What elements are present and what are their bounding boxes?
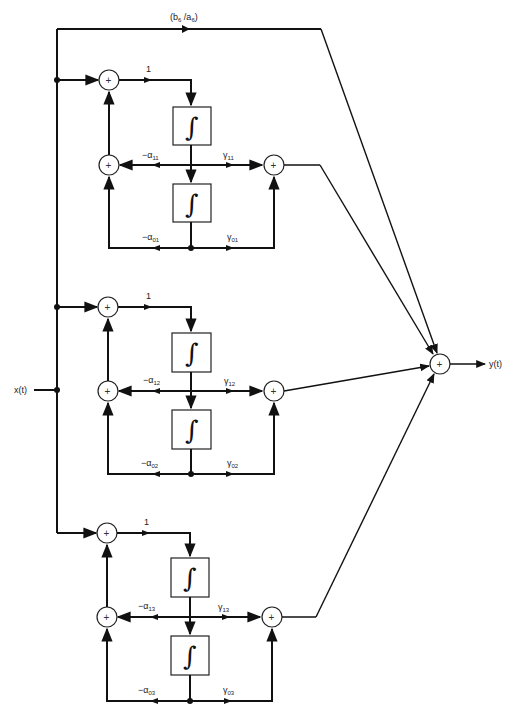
integral-icon: ∫ — [185, 415, 199, 445]
plus-icon: + — [105, 386, 111, 397]
gamma1-label: γ12 — [224, 376, 236, 387]
gamma0-label: γ02 — [227, 458, 239, 469]
alpha1-label: −α11 — [142, 150, 159, 161]
gamma0-label: γ03 — [223, 685, 235, 696]
arrow-icon — [182, 25, 190, 33]
gamma1-label: γ11 — [223, 150, 234, 161]
plus-icon: + — [104, 528, 110, 539]
plus-icon: + — [437, 359, 443, 370]
plus-icon: + — [106, 160, 112, 171]
feedthrough-gain-label: (b6 /a6) — [170, 12, 198, 23]
alpha1-label: −α13 — [138, 601, 156, 612]
forward-gain-label: 1 — [144, 517, 149, 527]
block-diagram: x(t) (b6 /a6) + 1 ∫ ∫ + — [0, 0, 524, 714]
alpha1-label: −α12 — [143, 375, 161, 386]
stage-3: + 1 ∫ ∫ + + −α13 γ13 −α03 γ03 — [57, 374, 434, 704]
stage-2-output-wire — [284, 366, 429, 391]
forward-gain-label: 1 — [146, 291, 151, 301]
plus-icon: + — [106, 75, 112, 86]
integral-icon: ∫ — [185, 338, 199, 368]
integral-icon: ∫ — [185, 112, 199, 142]
plus-icon: + — [271, 386, 277, 397]
plus-icon: + — [104, 612, 110, 623]
alpha0-label: −α01 — [142, 232, 160, 243]
integral-icon: ∫ — [185, 189, 199, 219]
output-section: + y(t) — [284, 354, 502, 391]
forward-gain-label: 1 — [146, 64, 151, 74]
arrow-icon — [144, 77, 152, 83]
gamma1-label: γ13 — [218, 602, 230, 613]
stage-2: + 1 ∫ ∫ + + −α12 γ12 −α02 γ02 — [54, 291, 284, 477]
plus-icon: + — [271, 160, 277, 171]
integral-icon: ∫ — [183, 641, 197, 671]
plus-icon: + — [269, 612, 275, 623]
plus-icon: + — [105, 302, 111, 313]
integral-icon: ∫ — [183, 563, 197, 593]
alpha0-label: −α03 — [138, 685, 156, 696]
alpha0-label: −α02 — [141, 458, 159, 469]
gamma0-label: γ01 — [227, 232, 239, 243]
input-label: x(t) — [14, 385, 27, 395]
output-label: y(t) — [489, 359, 502, 369]
